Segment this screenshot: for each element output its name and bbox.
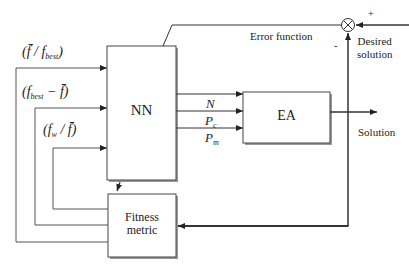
param-label-n: N (206, 96, 215, 112)
param-label-pc: Pc (205, 113, 217, 130)
nn-to-fitness-arrow (117, 182, 120, 191)
desired-line2: solution (357, 48, 392, 61)
summing-junction-icon (342, 19, 355, 32)
desired-solution-label: Desired solution (357, 35, 392, 61)
nn-label: NN (107, 102, 176, 119)
plus-sign: + (368, 8, 374, 19)
fitness-label-line2: metric (108, 224, 176, 237)
feedback-label-worst-over-avg: (fw / f̄) (43, 122, 76, 139)
desired-line1: Desired (357, 35, 392, 48)
param-label-pm: Pm (205, 130, 219, 147)
minus-sign: - (334, 40, 337, 51)
error-function-label: Error function (250, 30, 313, 42)
feedback-loop-inner (53, 148, 108, 209)
ea-label: EA (243, 108, 330, 124)
solution-label: Solution (358, 126, 395, 138)
feedback-label-best-minus-avg: (fbest − f̄) (22, 84, 68, 101)
feedback-label-avg-over-best: (f̄ / fbest) (22, 44, 63, 61)
fitness-label: Fitness metric (108, 211, 176, 237)
